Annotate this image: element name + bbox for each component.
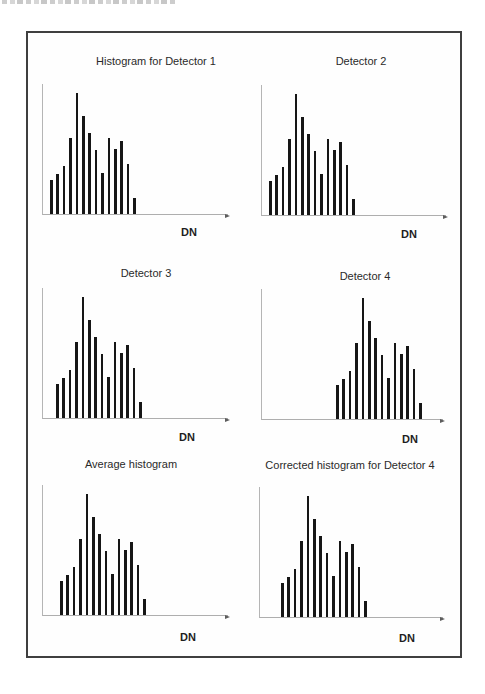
histogram-bar <box>326 553 329 617</box>
histogram-bar <box>137 565 140 615</box>
histogram-bar <box>281 583 284 617</box>
histogram-bar <box>76 93 79 214</box>
histogram-bar <box>86 494 89 615</box>
histogram-bar <box>60 581 63 615</box>
histogram-bar <box>143 599 146 615</box>
histogram-bar <box>133 368 136 418</box>
histogram-bar <box>374 338 377 419</box>
histogram-bar <box>139 402 142 418</box>
histogram-bar <box>120 141 123 214</box>
histogram-bar <box>307 496 310 617</box>
histogram-bar <box>130 542 133 615</box>
histogram-bar <box>66 575 69 615</box>
histogram-bar <box>319 536 322 617</box>
histogram-bar <box>111 574 114 615</box>
histogram-bar <box>62 378 65 418</box>
histogram-bar <box>327 139 330 215</box>
x-axis-arrow-icon <box>440 419 445 423</box>
x-axis-label-dn: DN <box>179 431 195 443</box>
histogram-bar <box>413 369 416 419</box>
histogram-chart-detector-2 <box>261 85 446 216</box>
histogram-bar <box>92 517 95 615</box>
cropped-page-header-text <box>2 0 178 4</box>
histogram-bar <box>82 297 85 418</box>
histogram-bar <box>355 343 358 419</box>
panel-title-detector-1: Histogram for Detector 1 <box>96 55 216 67</box>
histogram-bar <box>63 166 66 214</box>
histogram-bar <box>345 552 348 617</box>
histogram-bar <box>124 550 127 615</box>
x-axis-arrow-icon <box>225 214 230 218</box>
histogram-bar <box>349 371 352 419</box>
panel-title-detector-4: Detector 4 <box>340 270 391 282</box>
histogram-bar <box>287 577 290 617</box>
histogram-bar <box>381 355 384 419</box>
histogram-bar <box>79 539 82 615</box>
x-axis-arrow-icon <box>440 617 445 621</box>
histogram-bar <box>126 345 129 418</box>
histogram-bar <box>98 534 101 615</box>
histogram-bar <box>101 173 104 214</box>
histogram-chart-detector-3 <box>42 288 228 419</box>
histogram-bar <box>82 116 85 214</box>
histogram-bar <box>313 519 316 617</box>
histogram-bar <box>400 354 403 419</box>
histogram-chart-average <box>42 485 228 616</box>
histogram-bar <box>88 320 91 418</box>
histogram-bar <box>351 544 354 617</box>
histogram-bar <box>94 337 97 418</box>
histogram-bar <box>419 403 422 419</box>
histogram-bar <box>120 353 123 418</box>
histogram-bar <box>394 343 397 419</box>
histogram-bar <box>301 117 304 215</box>
histogram-bar <box>288 139 291 215</box>
x-axis-label-dn: DN <box>180 631 196 643</box>
histogram-bar <box>69 370 72 418</box>
histogram-bar <box>101 354 104 418</box>
x-axis-arrow-icon <box>225 418 230 422</box>
panel-title-corrected: Corrected histogram for Detector 4 <box>265 459 434 471</box>
histogram-bar <box>50 180 53 214</box>
histogram-bar <box>56 174 59 214</box>
histogram-bar <box>282 167 285 215</box>
histogram-bar <box>118 539 121 615</box>
x-axis-label-dn: DN <box>181 226 197 238</box>
histogram-bar <box>107 377 110 418</box>
histogram-bar <box>358 567 361 617</box>
x-axis-arrow-icon <box>225 615 230 619</box>
histogram-bar <box>300 541 303 617</box>
histogram-chart-detector-1 <box>42 84 228 215</box>
x-axis-label-dn: DN <box>401 228 417 240</box>
histogram-bar <box>295 94 298 215</box>
histogram-bar <box>73 567 76 615</box>
histogram-bar <box>108 138 111 214</box>
histogram-bar <box>88 133 91 214</box>
histogram-bar <box>339 541 342 617</box>
histogram-bar <box>336 385 339 419</box>
histogram-bar <box>95 150 98 214</box>
histogram-chart-detector-4 <box>261 289 443 420</box>
histogram-bar <box>406 346 409 419</box>
panel-title-detector-2: Detector 2 <box>336 55 387 67</box>
histogram-bar <box>346 165 349 215</box>
histogram-bar <box>133 198 136 214</box>
x-axis-label-dn: DN <box>399 632 415 644</box>
panel-title-average: Average histogram <box>85 458 177 470</box>
histogram-bar <box>114 149 117 214</box>
histogram-chart-corrected <box>259 487 443 618</box>
x-axis-arrow-icon <box>443 215 448 219</box>
histogram-bar <box>362 298 365 419</box>
histogram-bar <box>307 134 310 215</box>
histogram-bar <box>352 199 355 215</box>
histogram-bar <box>105 551 108 615</box>
histogram-bar <box>332 576 335 617</box>
histogram-bar <box>294 569 297 617</box>
x-axis-label-dn: DN <box>402 433 418 445</box>
panel-title-detector-3: Detector 3 <box>121 267 172 279</box>
histogram-bar <box>114 342 117 418</box>
histogram-bar <box>364 601 367 617</box>
histogram-bar <box>75 342 78 418</box>
histogram-bar <box>368 321 371 419</box>
histogram-bar <box>69 138 72 214</box>
scanned-book-page: Histogram for Detector 1 Detector 2 Dete… <box>0 0 485 694</box>
